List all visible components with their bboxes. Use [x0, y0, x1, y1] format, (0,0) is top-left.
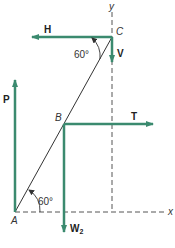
force-v-label: V [117, 48, 124, 59]
y-axis-label: y [108, 1, 115, 12]
force-p-label: P [3, 94, 10, 105]
force-h-label: H [44, 24, 51, 35]
force-w2-label: W2 [70, 223, 83, 235]
angle-a-label: 60° [38, 196, 53, 207]
free-body-diagram: H V P T W2 A B C x y 60° 60° [0, 0, 175, 248]
point-c-label: C [116, 26, 124, 37]
x-axis-label: x [167, 206, 174, 217]
angle-c-label: 60° [74, 49, 89, 60]
force-t-label: T [131, 111, 137, 122]
point-b-label: B [55, 112, 62, 123]
point-a-label: A [10, 215, 18, 226]
angle-arc-c [92, 38, 100, 59]
